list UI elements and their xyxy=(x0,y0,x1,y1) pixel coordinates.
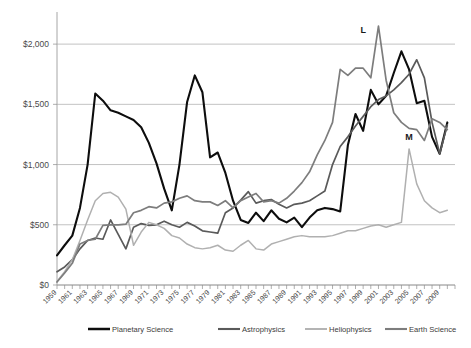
data-series-group xyxy=(57,26,447,282)
x-axis-tick-label: 1983 xyxy=(224,288,242,306)
y-axis-tick-label: $500 xyxy=(30,220,49,230)
y-axis xyxy=(53,12,57,285)
annotation-m: M xyxy=(405,132,413,142)
legend-label-astrophysics: Astrophysics xyxy=(242,325,285,334)
x-axis-tick-label: 1961 xyxy=(56,288,74,306)
x-axis-tick-label: 1981 xyxy=(209,288,227,306)
annotation-l: L xyxy=(360,25,366,35)
x-axis-tick-label: 1971 xyxy=(133,288,151,306)
x-axis-tick-label: 1967 xyxy=(102,288,120,306)
line-chart: $0$500$1,000$1,500$2,000 195919611963196… xyxy=(0,0,471,348)
x-axis-tick-label: 1959 xyxy=(41,288,59,306)
x-axis-tick-label: 1987 xyxy=(255,288,273,306)
x-axis-tick-label: 1969 xyxy=(117,288,135,306)
x-axis-tick-label: 2007 xyxy=(408,288,426,306)
y-axis-tick-label: $0 xyxy=(40,280,50,290)
x-axis-tick-label: 1993 xyxy=(301,288,319,306)
x-axis-tick-label: 1989 xyxy=(270,288,288,306)
x-axis-tick-label: 1999 xyxy=(347,288,365,306)
legend-label-earth-science: Earth Science xyxy=(409,325,456,334)
chart-legend: Planetary ScienceAstrophysicsHeliophysic… xyxy=(88,325,456,334)
chart-container: $0$500$1,000$1,500$2,000 195919611963196… xyxy=(0,0,471,348)
y-axis-tick-label: $2,000 xyxy=(23,39,49,49)
y-axis-tick-labels: $0$500$1,000$1,500$2,000 xyxy=(23,39,49,290)
y-axis-tick-label: $1,000 xyxy=(23,160,49,170)
legend-label-heliophysics: Heliophysics xyxy=(329,325,372,334)
legend-label-planetary-science: Planetary Science xyxy=(112,325,173,334)
x-axis-tick-label: 1977 xyxy=(179,288,197,306)
series-line-heliophysics xyxy=(57,149,447,281)
x-axis-tick-label: 1975 xyxy=(163,288,181,306)
x-axis-tick-label: 2005 xyxy=(393,288,411,306)
x-axis-tick-label: 1991 xyxy=(286,288,304,306)
x-axis-tick-label: 2001 xyxy=(362,288,380,306)
x-axis-tick-label: 1979 xyxy=(194,288,212,306)
x-axis xyxy=(57,285,455,289)
x-axis-tick-label: 2009 xyxy=(423,288,441,306)
x-axis-tick-label: 1963 xyxy=(71,288,89,306)
x-axis-tick-label: 1965 xyxy=(87,288,105,306)
x-axis-tick-label: 2003 xyxy=(378,288,396,306)
y-axis-tick-label: $1,500 xyxy=(23,99,49,109)
x-axis-tick-label: 1997 xyxy=(332,288,350,306)
x-axis-tick-label: 1995 xyxy=(316,288,334,306)
x-axis-tick-label: 1985 xyxy=(240,288,258,306)
x-axis-tick-labels: 1959196119631965196719691971197319751977… xyxy=(41,288,441,306)
x-axis-tick-label: 1973 xyxy=(148,288,166,306)
